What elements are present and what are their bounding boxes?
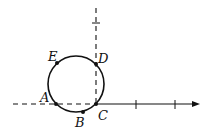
point-C bbox=[94, 102, 98, 106]
point-A bbox=[54, 102, 58, 106]
axis-arrow-icon bbox=[192, 101, 200, 107]
label-C: C bbox=[98, 108, 108, 123]
label-E: E bbox=[47, 49, 58, 64]
diagram: E D A B C bbox=[0, 0, 211, 132]
label-B: B bbox=[74, 115, 85, 130]
label-A: A bbox=[39, 90, 49, 105]
label-D: D bbox=[97, 51, 109, 66]
point-B bbox=[81, 110, 85, 114]
